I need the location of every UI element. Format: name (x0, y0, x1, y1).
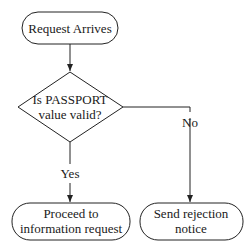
node-request-arrives-label: Request Arrives (28, 21, 111, 36)
edge-no-upper (123, 107, 190, 112)
flowchart-canvas: Request Arrives Is PASSPORT value valid?… (0, 0, 250, 252)
reject-label-line-2: notice (175, 221, 207, 236)
proceed-label-line-1: Proceed to (43, 206, 98, 221)
reject-label-line-1: Send rejection (154, 206, 229, 221)
decision-label-line-1: Is PASSPORT (33, 92, 108, 107)
edge-label-yes: Yes (61, 166, 80, 181)
node-request-arrives: Request Arrives (22, 12, 118, 44)
decision-label-line-2: value valid? (38, 107, 101, 122)
node-proceed-to-information-request: Proceed to information request (12, 203, 130, 240)
node-passport-valid-decision: Is PASSPORT value valid? (18, 72, 123, 142)
node-send-rejection-notice: Send rejection notice (140, 203, 243, 240)
proceed-label-line-2: information request (20, 221, 123, 236)
